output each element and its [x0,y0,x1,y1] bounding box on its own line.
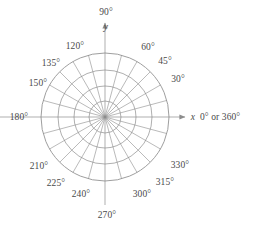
polar-spoke-330 [105,117,160,149]
angle-label-deg-180: 180° [10,113,28,123]
polar-spoke-315 [105,117,150,162]
angle-label-deg-0: 0° or 360° [200,113,240,123]
polar-spoke-135 [60,72,105,117]
angle-label-deg-90: 90° [99,8,113,18]
angle-label-deg-270: 270° [98,211,116,221]
angle-label-deg-210: 210° [30,162,48,172]
angle-label-deg-45: 45° [158,57,172,67]
polar-spoke-45 [105,72,150,117]
polar-spoke-150 [50,85,105,117]
angle-label-deg-135: 135° [42,59,60,69]
axis-letter-y-letter: y [104,23,108,33]
polar-spoke-240 [73,117,105,172]
angle-label-deg-30: 30° [171,75,185,85]
angle-label-deg-120: 120° [66,42,84,52]
angle-label-deg-240: 240° [72,190,90,200]
angle-label-deg-60: 60° [141,43,155,53]
angle-label-deg-225: 225° [47,179,65,189]
polar-spoke-300 [105,117,137,172]
polar-spoke-225 [60,117,105,162]
polar-spoke-60 [105,62,137,117]
angle-label-deg-150: 150° [29,79,47,89]
polar-spoke-120 [73,62,105,117]
axis-letter-x-letter: x [191,113,195,123]
angle-label-deg-330: 330° [171,161,189,171]
polar-grid-figure: 0° or 360°30°45°60°90°120°135°150°180°21… [0,0,261,234]
angle-label-deg-315: 315° [156,178,174,188]
angle-label-deg-300: 300° [133,190,151,200]
polar-spoke-210 [50,117,105,149]
polar-spoke-30 [105,85,160,117]
